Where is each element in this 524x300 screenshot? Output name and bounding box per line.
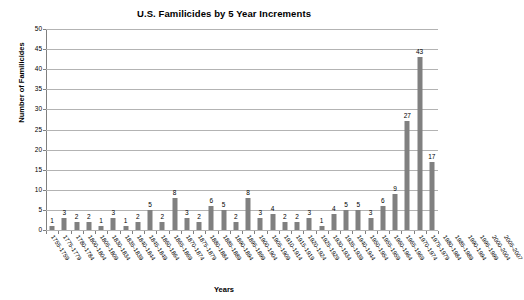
bar[interactable] <box>184 218 189 230</box>
bar[interactable] <box>123 226 128 230</box>
bar-value-label: 2 <box>136 214 140 221</box>
bar-value-label: 2 <box>283 214 287 221</box>
bar-value-label: 3 <box>369 210 373 217</box>
x-tick-mark <box>438 231 439 234</box>
y-tick-label: 5 <box>38 207 42 214</box>
bar[interactable] <box>417 57 422 230</box>
bar-slot[interactable]: 8 <box>169 29 181 230</box>
bar-slot[interactable]: 8 <box>242 29 254 230</box>
bar[interactable] <box>258 218 263 230</box>
bar-value-label: 43 <box>416 49 423 56</box>
bar[interactable] <box>344 210 349 230</box>
bar[interactable] <box>221 210 226 230</box>
bar[interactable] <box>331 214 336 230</box>
bar-slot[interactable]: 9 <box>389 29 401 230</box>
chart-title: U.S. Familicides by 5 Year Increments <box>0 8 448 19</box>
bar[interactable] <box>50 226 55 230</box>
bar-slot[interactable]: 3 <box>181 29 193 230</box>
y-tick-label: 15 <box>35 166 42 173</box>
bar-value-label: 4 <box>271 206 275 213</box>
y-tick-label: 20 <box>35 146 42 153</box>
bar[interactable] <box>209 206 214 230</box>
bar-value-label: 2 <box>161 214 165 221</box>
bar-value-label: 3 <box>259 210 263 217</box>
bar[interactable] <box>74 222 79 230</box>
y-tick-label: 35 <box>35 86 42 93</box>
bar-slot[interactable]: 3 <box>365 29 377 230</box>
bar[interactable] <box>111 218 116 230</box>
bar-slot[interactable]: 3 <box>107 29 119 230</box>
bar-value-label: 2 <box>197 214 201 221</box>
bar[interactable] <box>270 214 275 230</box>
bar-slot[interactable]: 1 <box>316 29 328 230</box>
bar-slot[interactable]: 5 <box>218 29 230 230</box>
bar[interactable] <box>295 222 300 230</box>
bar[interactable] <box>307 218 312 230</box>
bar-slot[interactable]: 2 <box>279 29 291 230</box>
bar[interactable] <box>246 198 251 230</box>
bar-slot[interactable]: 2 <box>230 29 242 230</box>
bar-value-label: 1 <box>99 218 103 225</box>
bar-slot[interactable]: 43 <box>414 29 426 230</box>
bar-slot[interactable]: 3 <box>58 29 70 230</box>
bar[interactable] <box>393 194 398 230</box>
y-tick-label: 40 <box>35 66 42 73</box>
bar-value-label: 9 <box>393 186 397 193</box>
bar-slot[interactable]: 2 <box>291 29 303 230</box>
bar-slot[interactable]: 1 <box>46 29 58 230</box>
bar[interactable] <box>356 210 361 230</box>
bar-slot[interactable]: 1 <box>120 29 132 230</box>
bar-slot[interactable]: 17 <box>426 29 438 230</box>
bar[interactable] <box>380 206 385 230</box>
bar-slot[interactable]: 2 <box>193 29 205 230</box>
bar[interactable] <box>172 198 177 230</box>
bar[interactable] <box>319 226 324 230</box>
bar-value-label: 3 <box>112 210 116 217</box>
bar[interactable] <box>86 222 91 230</box>
bar-slot[interactable]: 4 <box>267 29 279 230</box>
bar-value-label: 3 <box>63 210 67 217</box>
bar-slot[interactable]: 2 <box>156 29 168 230</box>
bar-slot[interactable]: 3 <box>303 29 315 230</box>
bar-slot[interactable]: 5 <box>144 29 156 230</box>
bar-value-label: 4 <box>332 206 336 213</box>
bar-slot[interactable]: 5 <box>352 29 364 230</box>
bar-value-label: 1 <box>320 218 324 225</box>
bar[interactable] <box>160 222 165 230</box>
bar[interactable] <box>429 162 434 230</box>
bar-slot[interactable]: 27 <box>401 29 413 230</box>
y-tick-label: 10 <box>35 187 42 194</box>
bar[interactable] <box>62 218 67 230</box>
bar-value-label: 3 <box>185 210 189 217</box>
bar[interactable] <box>233 222 238 230</box>
bar-value-label: 1 <box>50 218 54 225</box>
bar-slot[interactable]: 1 <box>95 29 107 230</box>
bar[interactable] <box>405 121 410 230</box>
bar-value-label: 5 <box>344 202 348 209</box>
bar[interactable] <box>99 226 104 230</box>
bar-slot[interactable]: 6 <box>377 29 389 230</box>
bar-slot[interactable]: 6 <box>205 29 217 230</box>
bar-value-label: 5 <box>148 202 152 209</box>
bar[interactable] <box>148 210 153 230</box>
bar-value-label: 5 <box>222 202 226 209</box>
bar[interactable] <box>135 222 140 230</box>
bar-slot[interactable]: 5 <box>340 29 352 230</box>
bar-slot[interactable]: 2 <box>71 29 83 230</box>
bar-value-label: 6 <box>210 198 214 205</box>
bar-slot[interactable]: 2 <box>132 29 144 230</box>
bar[interactable] <box>368 218 373 230</box>
bar-value-label: 2 <box>295 214 299 221</box>
y-tick-label: 50 <box>35 26 42 33</box>
bar-value-label: 8 <box>246 190 250 197</box>
bar-value-label: 6 <box>381 198 385 205</box>
bar-slot[interactable]: 4 <box>328 29 340 230</box>
y-tick-label: 30 <box>35 106 42 113</box>
plot-area: 05101520253035404550 1322131252832652834… <box>46 29 438 230</box>
x-axis-title: Years <box>0 285 448 294</box>
bar-slot[interactable]: 2 <box>83 29 95 230</box>
bar[interactable] <box>197 222 202 230</box>
bar[interactable] <box>282 222 287 230</box>
bar-value-label: 27 <box>404 113 411 120</box>
bar-slot[interactable]: 3 <box>254 29 266 230</box>
